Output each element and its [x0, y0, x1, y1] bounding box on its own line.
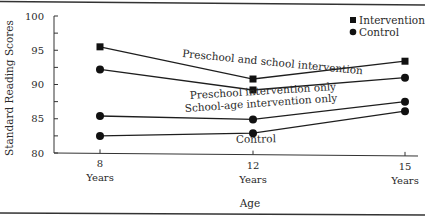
y-tick-label: 90 — [31, 79, 44, 90]
x-tick-label: 8 — [97, 158, 103, 169]
x-tick-unit-label: Years — [85, 172, 114, 183]
data-point-circle — [401, 74, 409, 82]
data-point-square — [250, 76, 257, 83]
y-tick-label: 100 — [25, 11, 44, 22]
x-tick-label: 12 — [247, 160, 260, 171]
data-point-circle — [249, 115, 257, 123]
data-point-square — [402, 58, 409, 65]
legend-label-control: Control — [359, 26, 400, 38]
legend-square-marker-icon — [350, 17, 356, 23]
y-tick-label: 80 — [31, 148, 44, 159]
data-point-circle — [96, 65, 104, 73]
y-axis-ticks: 80859095100 — [25, 11, 58, 159]
data-point-circle — [401, 107, 409, 115]
legend-circle-marker-icon — [350, 29, 357, 36]
x-tick-label: 15 — [399, 161, 412, 172]
y-tick-label: 95 — [31, 45, 44, 56]
chart: 80859095100 8Years12Years15Years Standar… — [0, 0, 425, 222]
legend-label-intervention: Intervention — [359, 14, 425, 26]
top-rule — [0, 2, 425, 6]
data-point-circle — [401, 98, 409, 106]
legend: Intervention Control — [350, 14, 425, 38]
data-point-square — [97, 43, 104, 50]
x-tick-unit-label: Years — [238, 174, 267, 185]
annotation-control: Control — [236, 132, 277, 145]
x-tick-unit-label: Years — [390, 175, 419, 186]
annotation-preschool-and-school: Preschool and school intervention — [182, 47, 364, 76]
data-point-circle — [96, 132, 104, 140]
y-tick-label: 85 — [31, 113, 44, 124]
x-axis-title: Age — [239, 197, 261, 209]
data-point-circle — [96, 112, 104, 120]
bottom-rule — [0, 213, 425, 215]
y-axis-title: Standard Reading Scores — [3, 20, 15, 156]
